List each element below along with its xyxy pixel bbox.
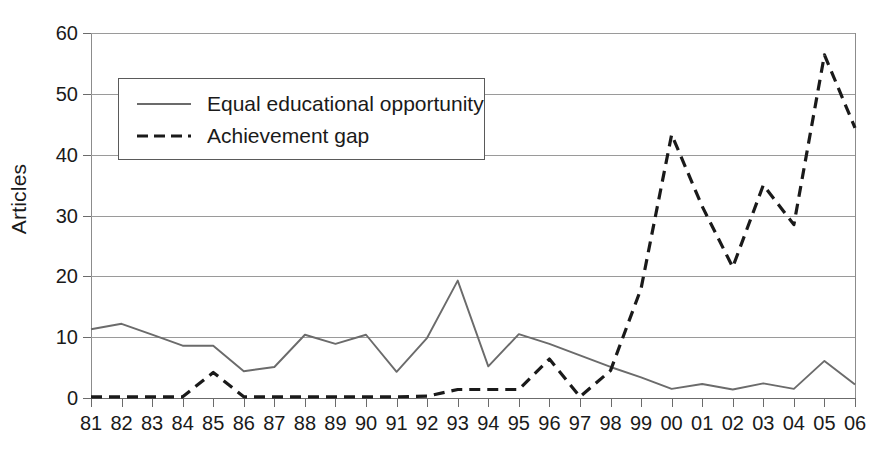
x-tick-label-82: 82	[110, 412, 132, 435]
x-tick-mark-84	[183, 399, 184, 407]
x-tick-label-89: 89	[324, 412, 346, 435]
y-tick-mark-10	[83, 337, 91, 338]
x-tick-mark-05	[824, 399, 825, 407]
x-tick-mark-04	[794, 399, 795, 407]
x-tick-label-03: 03	[752, 412, 774, 435]
x-tick-label-05: 05	[813, 412, 835, 435]
x-tick-label-00: 00	[661, 412, 683, 435]
x-tick-label-04: 04	[783, 412, 805, 435]
x-tick-label-06: 06	[844, 412, 866, 435]
x-tick-mark-86	[244, 399, 245, 407]
x-tick-mark-87	[274, 399, 275, 407]
x-tick-mark-91	[397, 399, 398, 407]
legend-line-dashed-icon	[137, 130, 191, 142]
x-tick-label-90: 90	[355, 412, 377, 435]
y-tick-mark-0	[83, 398, 91, 399]
legend-label-1: Achievement gap	[207, 124, 369, 148]
legend-entry-achievement-gap: Achievement gap	[119, 120, 484, 152]
x-tick-label-01: 01	[691, 412, 713, 435]
x-tick-mark-01	[702, 399, 703, 407]
x-tick-label-81: 81	[80, 412, 102, 435]
x-tick-mark-89	[335, 399, 336, 407]
x-tick-mark-03	[763, 399, 764, 407]
x-tick-label-98: 98	[599, 412, 621, 435]
x-tick-mark-97	[580, 399, 581, 407]
x-tick-label-83: 83	[141, 412, 163, 435]
x-tick-mark-83	[152, 399, 153, 407]
x-tick-mark-98	[611, 399, 612, 407]
x-tick-label-86: 86	[233, 412, 255, 435]
chart-legend: Equal educational opportunity Achievemen…	[118, 78, 485, 160]
x-tick-mark-96	[549, 399, 550, 407]
x-tick-label-91: 91	[385, 412, 407, 435]
x-tick-mark-94	[488, 399, 489, 407]
x-tick-label-94: 94	[477, 412, 499, 435]
y-tick-mark-50	[83, 94, 91, 95]
x-tick-label-99: 99	[630, 412, 652, 435]
y-tick-mark-20	[83, 276, 91, 277]
x-tick-label-87: 87	[263, 412, 285, 435]
x-tick-mark-90	[366, 399, 367, 407]
y-tick-mark-40	[83, 155, 91, 156]
x-tick-mark-06	[855, 399, 856, 407]
x-tick-label-84: 84	[172, 412, 194, 435]
x-tick-mark-85	[213, 399, 214, 407]
x-tick-label-93: 93	[447, 412, 469, 435]
y-tick-mark-60	[83, 33, 91, 34]
x-tick-label-95: 95	[508, 412, 530, 435]
legend-line-solid-icon	[137, 98, 191, 110]
y-tick-mark-30	[83, 216, 91, 217]
x-tick-label-92: 92	[416, 412, 438, 435]
x-tick-mark-81	[91, 399, 92, 407]
x-tick-mark-99	[641, 399, 642, 407]
x-tick-mark-92	[427, 399, 428, 407]
x-tick-label-85: 85	[202, 412, 224, 435]
legend-label-0: Equal educational opportunity	[207, 92, 484, 116]
series-line-equal-educational-opportunity	[91, 281, 855, 390]
x-tick-mark-82	[122, 399, 123, 407]
x-tick-label-88: 88	[294, 412, 316, 435]
x-tick-label-97: 97	[569, 412, 591, 435]
series-layer	[0, 0, 876, 457]
x-tick-label-96: 96	[538, 412, 560, 435]
legend-entry-equal-educational-opportunity: Equal educational opportunity	[119, 88, 484, 120]
x-tick-label-02: 02	[722, 412, 744, 435]
chart-container: Articles 0102030405060 Equal educational…	[0, 0, 876, 457]
x-tick-mark-93	[458, 399, 459, 407]
x-tick-mark-00	[672, 399, 673, 407]
x-tick-mark-88	[305, 399, 306, 407]
x-tick-mark-95	[519, 399, 520, 407]
x-tick-mark-02	[733, 399, 734, 407]
